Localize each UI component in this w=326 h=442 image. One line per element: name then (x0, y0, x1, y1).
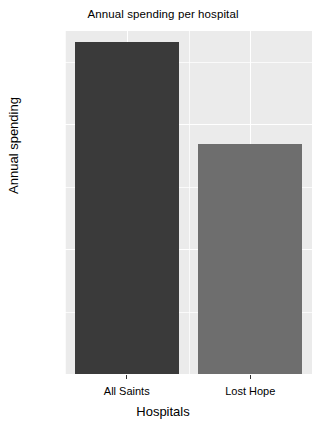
gridline-minor-vertical (65, 31, 66, 374)
x-axis-title: Hospitals (0, 404, 326, 419)
x-tick-label: Lost Hope (190, 385, 310, 397)
plot-panel (65, 31, 312, 374)
x-tick-label: All Saints (67, 385, 187, 397)
x-tick-mark (126, 375, 127, 379)
chart-title: Annual spending per hospital (0, 8, 326, 20)
bar-chart: Annual spending per hospital 05001000 An… (0, 0, 326, 442)
y-axis-title: Annual spending (6, 76, 21, 216)
x-tick-mark (250, 375, 251, 379)
bar (198, 144, 302, 375)
gridline-minor-vertical (189, 31, 190, 374)
bar (75, 42, 179, 374)
